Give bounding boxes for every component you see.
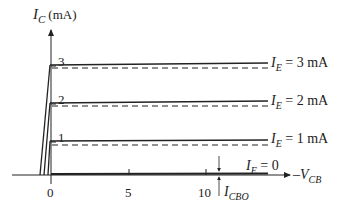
x-tick-0: 0 xyxy=(47,185,54,200)
y-tick-2: 2 xyxy=(58,92,65,107)
saturation-edges xyxy=(40,65,50,175)
curve-ie-2ma xyxy=(50,101,268,103)
x-tick-10: 10 xyxy=(198,185,211,200)
x-tick-5: 5 xyxy=(125,185,132,200)
icbo-label: ICBO xyxy=(223,184,249,202)
curve-ie-3ma xyxy=(50,63,268,65)
chart: 3 2 1 0 5 10 IC(mA) –VCB IE = 3 mA IE = … xyxy=(0,0,337,210)
y-tick-1: 1 xyxy=(58,130,65,145)
label-ie-2ma: IE = 2 mA xyxy=(270,93,329,111)
x-axis-label: –VCB xyxy=(292,167,321,185)
curve-ie-0 xyxy=(51,174,268,175)
label-ie-3ma: IE = 3 mA xyxy=(270,55,329,73)
y-tick-3: 3 xyxy=(58,54,65,69)
curve-ie-1ma xyxy=(50,140,268,141)
y-ticks xyxy=(51,66,56,142)
y-axis-label: IC(mA) xyxy=(32,6,77,25)
label-ie-1ma: IE = 1 mA xyxy=(270,131,329,149)
